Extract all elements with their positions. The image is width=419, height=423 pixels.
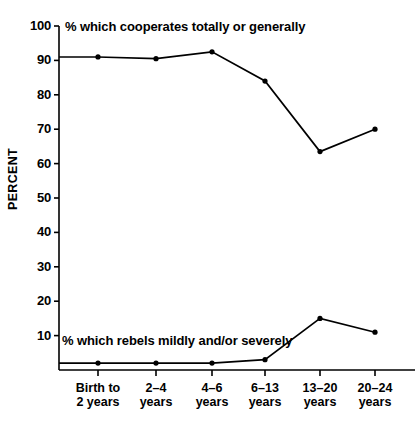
x-axis-tick-label-line2: years — [330, 395, 419, 409]
series-label-rebels: % which rebels mildly and/or severely — [62, 333, 292, 348]
data-point-marker — [262, 78, 267, 83]
data-point-marker — [317, 316, 322, 321]
x-axis-category-label: 20–24years — [330, 381, 419, 409]
x-axis-tick-label-line1: 20–24 — [330, 381, 419, 395]
y-axis-tick-label: 90 — [8, 52, 51, 67]
y-axis-tick-label: 70 — [8, 121, 51, 136]
data-point-marker — [372, 127, 377, 132]
series-line-cooperates — [59, 52, 375, 152]
y-axis-tick-label: 100 — [8, 18, 51, 33]
plot-area — [0, 0, 419, 423]
series-label-cooperates: % which cooperates totally or generally — [65, 19, 305, 34]
data-point-marker — [153, 361, 158, 366]
data-series — [59, 49, 378, 366]
y-axis-tick-label: 40 — [8, 224, 51, 239]
y-axis-title: PERCENT — [6, 139, 20, 219]
data-point-marker — [209, 361, 214, 366]
y-axis-tick-label: 30 — [8, 259, 51, 274]
y-axis-tick-label: 10 — [8, 328, 51, 343]
data-point-marker — [262, 357, 267, 362]
axis-lines — [59, 26, 415, 370]
data-point-marker — [95, 361, 100, 366]
y-axis-tick-label: 60 — [8, 156, 51, 171]
data-point-marker — [209, 49, 214, 54]
data-point-marker — [153, 56, 158, 61]
y-axis-tick-label: 80 — [8, 87, 51, 102]
y-axis-tick-label: 50 — [8, 190, 51, 205]
tick-marks — [54, 26, 375, 376]
percent-cooperates-rebels-line-chart: PERCENT 100908070605040302010 Birth to2 … — [0, 0, 419, 423]
data-point-marker — [372, 330, 377, 335]
data-point-marker — [95, 54, 100, 59]
y-axis-tick-label: 20 — [8, 293, 51, 308]
data-point-marker — [317, 149, 322, 154]
